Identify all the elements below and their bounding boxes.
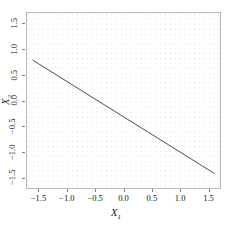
x-tick-mark xyxy=(180,189,181,192)
x-tick-mark xyxy=(124,189,125,192)
y-tick-mark xyxy=(22,178,25,179)
x-tick-label: 0.5 xyxy=(147,194,158,203)
x-tick-label: 1.0 xyxy=(175,194,186,203)
y-axis-title-subscript: 2 xyxy=(6,96,14,100)
y-tick-mark xyxy=(22,23,25,24)
y-tick-mark xyxy=(22,101,25,102)
x-axis-title: X1 xyxy=(0,207,232,221)
x-tick-label: 1.5 xyxy=(203,194,214,203)
x-tick-mark xyxy=(38,189,39,192)
x-tick-label: −0.5 xyxy=(87,194,102,203)
y-axis-title-rotated: X2 xyxy=(0,96,14,106)
plot-panel xyxy=(26,12,221,189)
y-tick-mark xyxy=(22,152,25,153)
chart-figure: −1.5−1.0−0.50.00.51.01.5 −1.5−1.0−0.50.0… xyxy=(0,0,232,231)
x-tick-label: −1.0 xyxy=(59,194,74,203)
y-tick-mark xyxy=(22,49,25,50)
x-tick-label: −1.5 xyxy=(31,194,46,203)
x-axis-title-subscript: 1 xyxy=(117,213,121,221)
plot-data-layer xyxy=(27,13,220,188)
x-tick-mark xyxy=(95,189,96,192)
x-tick-mark xyxy=(67,189,68,192)
x-tick-label: 0.0 xyxy=(118,194,129,203)
y-axis-title-base: X xyxy=(0,99,11,105)
decision-boundary-line xyxy=(33,60,215,173)
y-tick-mark xyxy=(22,126,25,127)
y-axis-title: X2 xyxy=(0,0,14,201)
x-tick-mark xyxy=(209,189,210,192)
x-tick-mark xyxy=(152,189,153,192)
y-tick-mark xyxy=(22,75,25,76)
